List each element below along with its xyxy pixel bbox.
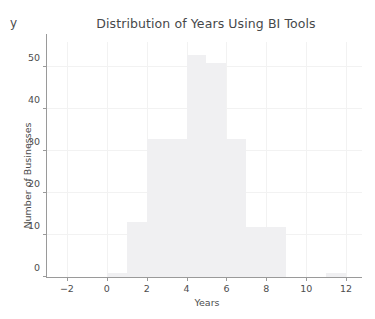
x-tick-label: 10	[300, 283, 312, 294]
histogram-bar	[246, 227, 266, 277]
y-tick-label: 0	[34, 261, 40, 272]
corner-axis-marker: y	[10, 17, 17, 29]
x-tick-mark	[306, 277, 307, 281]
histogram-bar	[266, 227, 286, 277]
gridline-vertical	[67, 42, 68, 277]
y-tick-mark	[43, 108, 47, 109]
gridline-vertical	[306, 42, 307, 277]
y-tick-label: 20	[28, 177, 40, 188]
x-tick-label: 4	[184, 283, 190, 294]
y-tick-mark	[43, 150, 47, 151]
histogram-bar	[127, 222, 147, 277]
x-tick-mark	[346, 277, 347, 281]
x-tick-mark	[187, 277, 188, 281]
y-tick-mark	[43, 192, 47, 193]
x-tick-label: 0	[104, 283, 110, 294]
y-axis-spine	[46, 34, 47, 277]
y-tick-mark	[43, 276, 47, 277]
histogram-figure: y Distribution of Years Using BI Tools N…	[0, 0, 375, 319]
y-tick-label: 40	[28, 93, 40, 104]
plot-area: 01020304050 −2024681012	[47, 42, 362, 277]
x-tick-label: 6	[223, 283, 229, 294]
y-tick-mark	[43, 66, 47, 67]
y-tick-mark	[43, 234, 47, 235]
x-axis-title: Years	[47, 297, 367, 308]
x-tick-mark	[147, 277, 148, 281]
histogram-bar	[206, 63, 226, 277]
x-tick-mark	[226, 277, 227, 281]
histogram-bar	[147, 139, 167, 277]
y-tick-label: 10	[28, 219, 40, 230]
chart-title: Distribution of Years Using BI Tools	[47, 16, 365, 31]
y-tick-label: 30	[28, 135, 40, 146]
histogram-bar	[187, 55, 207, 277]
x-tick-label: −2	[60, 283, 74, 294]
gridline-vertical	[107, 42, 108, 277]
x-tick-label: 12	[340, 283, 352, 294]
y-tick-label: 50	[28, 51, 40, 62]
x-tick-mark	[67, 277, 68, 281]
y-axis-title: Number of Businesses	[22, 86, 33, 266]
gridline-vertical	[346, 42, 347, 277]
histogram-bar	[226, 139, 246, 277]
x-axis-spine	[46, 277, 362, 278]
histogram-bar	[167, 139, 187, 277]
x-tick-mark	[107, 277, 108, 281]
x-tick-mark	[266, 277, 267, 281]
x-tick-label: 8	[263, 283, 269, 294]
x-tick-label: 2	[144, 283, 150, 294]
